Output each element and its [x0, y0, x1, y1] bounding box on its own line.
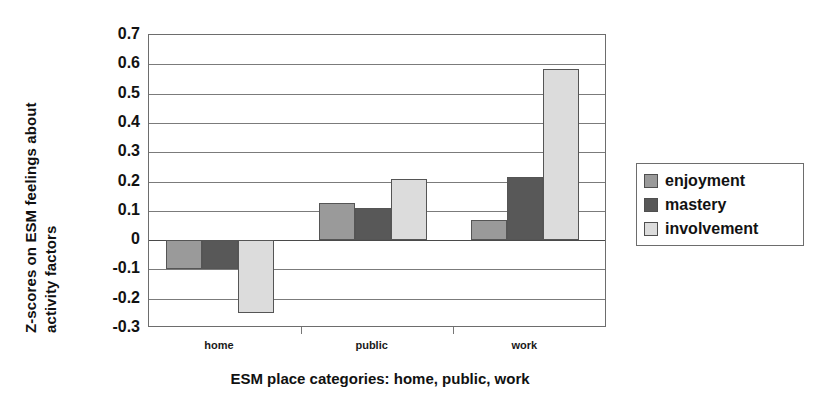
y-axis-tick-label: -0.3 — [98, 319, 140, 335]
bar-public-mastery — [355, 208, 391, 240]
y-axis-tick-label: 0.3 — [98, 143, 140, 159]
legend-item-mastery: mastery — [644, 193, 799, 217]
bar-home-mastery — [202, 240, 238, 269]
legend-item-label: mastery — [665, 197, 726, 213]
x-axis-category-label-work: work — [511, 339, 537, 351]
bar-work-involvement — [543, 69, 579, 240]
bar-work-mastery — [507, 177, 543, 240]
x-axis-category-label-public: public — [355, 339, 387, 351]
y-axis-tick-label: 0 — [98, 231, 140, 247]
y-axis-tick-labels: 0.70.60.50.40.30.20.10-0.1-0.2-0.3 — [96, 34, 140, 327]
legend-swatch-icon — [644, 198, 658, 212]
x-axis-category-label-home: home — [204, 339, 233, 351]
y-axis-tick-label: 0.2 — [98, 173, 140, 189]
x-axis-tick — [301, 327, 302, 334]
y-axis-tick-label: -0.2 — [98, 290, 140, 306]
legend-item-label: enjoyment — [665, 173, 745, 189]
bar-public-involvement — [391, 179, 427, 241]
bar-home-involvement — [238, 240, 274, 313]
legend: enjoymentmasteryinvolvement — [636, 163, 804, 246]
y-axis-title-line-2: activity factors — [42, 226, 59, 333]
gridline — [149, 299, 605, 300]
gridline — [149, 152, 605, 153]
bar-work-enjoyment — [471, 220, 507, 241]
gridline — [149, 123, 605, 124]
bar-public-enjoyment — [319, 203, 355, 240]
y-axis-tick-label: 0.1 — [98, 202, 140, 218]
legend-item-enjoyment: enjoyment — [644, 169, 799, 193]
bar-home-enjoyment — [166, 240, 202, 269]
legend-item-label: involvement — [665, 221, 758, 237]
legend-swatch-icon — [644, 222, 658, 236]
y-axis-tick-label: 0.5 — [98, 85, 140, 101]
bar-chart-figure: Z-scores on ESM feelings about activity … — [0, 0, 819, 406]
y-axis-tick-label: 0.7 — [98, 26, 140, 42]
gridline — [149, 94, 605, 95]
y-axis-tick-label: 0.4 — [98, 114, 140, 130]
y-axis-tick-label: 0.6 — [98, 55, 140, 71]
y-axis-tick-label: -0.1 — [98, 260, 140, 276]
x-axis-tick — [453, 327, 454, 334]
plot-area — [148, 34, 606, 327]
x-axis-title: ESM place categories: home, public, work — [120, 370, 640, 387]
y-axis-title-line-1: Z-scores on ESM feelings about — [22, 102, 39, 333]
legend-swatch-icon — [644, 174, 658, 188]
legend-item-involvement: involvement — [644, 217, 799, 241]
y-axis-title: Z-scores on ESM feelings about activity … — [0, 0, 56, 340]
gridline — [149, 269, 605, 270]
gridline — [149, 64, 605, 65]
